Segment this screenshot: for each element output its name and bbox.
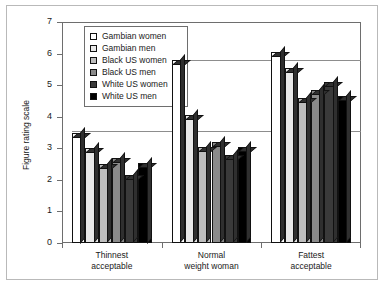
x-axis-tick-mark	[360, 243, 361, 248]
bar	[112, 158, 125, 243]
bar	[72, 133, 85, 244]
bar-side-face	[193, 109, 198, 243]
y-axis-ticks: 01234567	[0, 0, 62, 266]
bar	[298, 98, 311, 243]
figure-rating-chart: Figure rating scale 01234567 Thinnestacc…	[0, 0, 385, 286]
bar	[99, 164, 112, 243]
x-axis-tick-mark	[162, 243, 163, 248]
x-axis-category-label-line: weight woman	[162, 261, 262, 272]
legend-label: Black US women	[102, 55, 167, 65]
legend-item: Gambian men	[90, 42, 182, 54]
bar-side-face	[107, 158, 112, 243]
bar-side-face	[80, 127, 85, 243]
bar	[271, 52, 284, 243]
bar-side-face	[147, 157, 152, 243]
bar-side-face	[346, 90, 351, 243]
x-axis-category-label-line: acceptable	[261, 261, 361, 272]
legend-label: Gambian women	[102, 31, 166, 41]
bar-side-face	[94, 142, 99, 243]
x-axis-category-label: Normalweight woman	[162, 250, 262, 272]
legend-item: Black US women	[90, 54, 182, 66]
y-axis-tick-label: 5	[47, 79, 52, 89]
bar	[285, 68, 298, 243]
legend-item: White US women	[90, 78, 182, 90]
x-axis-category-label-line: Fattest	[261, 250, 361, 261]
x-axis-category-label-line: Normal	[162, 250, 262, 261]
x-axis-category-label: Fattestacceptable	[261, 250, 361, 272]
legend-swatch	[90, 45, 97, 52]
legend-swatch	[90, 93, 97, 100]
y-axis-tick-label: 4	[47, 111, 52, 121]
x-axis-category-label-line: acceptable	[62, 261, 162, 272]
reference-line	[172, 60, 361, 61]
bar-side-face	[293, 62, 298, 243]
bar-side-face	[233, 149, 238, 243]
legend-label: Black US men	[102, 67, 156, 77]
bar-side-face	[180, 54, 185, 243]
x-axis-category-label-line: Thinnest	[62, 250, 162, 261]
x-axis-tick-mark	[261, 243, 262, 248]
legend-label: Gambian men	[102, 43, 155, 53]
legend-swatch	[90, 81, 97, 88]
y-axis-tick-label: 0	[47, 237, 52, 247]
y-axis-tick-label: 1	[47, 205, 52, 215]
legend-item: Black US men	[90, 66, 182, 78]
bar	[125, 175, 138, 243]
bar	[338, 96, 351, 243]
x-axis-tick-mark	[62, 243, 63, 248]
legend-item: White US men	[90, 90, 182, 102]
bar-side-face	[220, 136, 225, 243]
bar	[225, 155, 238, 243]
bar-side-face	[246, 141, 251, 243]
legend-item: Gambian women	[90, 30, 182, 42]
legend-label: White US women	[102, 79, 168, 89]
legend-swatch	[90, 69, 97, 76]
bar	[172, 60, 185, 243]
bar	[198, 147, 211, 243]
bar	[212, 142, 225, 243]
bar-side-face	[319, 84, 324, 243]
bar-side-face	[306, 92, 311, 243]
bar-side-face	[333, 76, 338, 243]
legend-label: White US men	[102, 91, 157, 101]
bar-side-face	[120, 152, 125, 243]
bar-side-face	[280, 46, 285, 243]
bar-side-face	[206, 141, 211, 243]
bar	[324, 82, 337, 243]
x-axis-category-labels: ThinnestacceptableNormalweight womanFatt…	[62, 250, 361, 280]
x-axis-category-label: Thinnestacceptable	[62, 250, 162, 272]
bar	[238, 147, 251, 243]
y-axis-tick-label: 3	[47, 142, 52, 152]
y-axis-tick-label: 7	[47, 16, 52, 26]
legend-swatch	[90, 57, 97, 64]
legend-swatch	[90, 33, 97, 40]
bar	[311, 90, 324, 243]
bar-side-face	[133, 169, 138, 243]
y-axis-tick-label: 2	[47, 174, 52, 184]
bar	[85, 148, 98, 243]
bar	[185, 115, 198, 243]
y-axis-tick-label: 6	[47, 48, 52, 58]
